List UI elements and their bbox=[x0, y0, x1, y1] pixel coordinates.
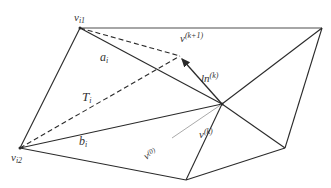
edge-vi1-vi2 bbox=[20, 28, 80, 148]
edge-bi bbox=[20, 104, 222, 148]
mesh-diagram: vi1 v(k+1) ai ln(k) Ti v(k) v(0) bi vi2 bbox=[0, 0, 331, 188]
edge-rightbottom-bottommid bbox=[186, 148, 285, 180]
edge-center-rightbottom bbox=[222, 104, 285, 148]
edge-topright-rightbottom bbox=[285, 28, 322, 148]
label-vi1: vi1 bbox=[74, 11, 85, 25]
label-bi: bi bbox=[79, 134, 87, 149]
dashed-lines bbox=[20, 28, 180, 148]
dashed-vi2-vk1 bbox=[20, 56, 180, 148]
label-ai: ai bbox=[100, 50, 108, 65]
label-Ti: Ti bbox=[82, 89, 91, 105]
edge-vi2-bottommid bbox=[20, 148, 186, 180]
dashed-vi1-vk1 bbox=[80, 28, 180, 56]
label-v0: v(0) bbox=[142, 146, 159, 162]
mesh-edges bbox=[20, 28, 322, 180]
label-lnk: ln(k) bbox=[201, 71, 219, 84]
label-vk1: v(k+1) bbox=[180, 31, 204, 44]
vertex-center bbox=[221, 103, 224, 106]
vertex-vi1 bbox=[79, 27, 82, 30]
edge-center-topright bbox=[222, 28, 322, 104]
label-vi2: vi2 bbox=[11, 151, 22, 165]
edge-center-bottommid bbox=[186, 104, 222, 180]
vertex-vi2 bbox=[19, 147, 22, 150]
